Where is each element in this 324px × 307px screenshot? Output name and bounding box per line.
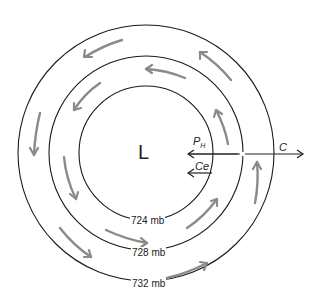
coriolis-label: C [279,141,287,153]
isobar-732-label: 732 mb [131,278,166,289]
isobar-diagram [0,0,324,307]
pressure-gradient-label: PH [193,135,205,149]
isobar-728-label: 728 mb [131,247,166,258]
centrifugal-label: Ce [195,160,209,172]
isobar-724-label: 724 mb [130,215,165,226]
diagram-canvas: L PH Ce C 724 mb 728 mb 732 mb [0,0,324,307]
low-pressure-center-label: L [138,141,149,164]
